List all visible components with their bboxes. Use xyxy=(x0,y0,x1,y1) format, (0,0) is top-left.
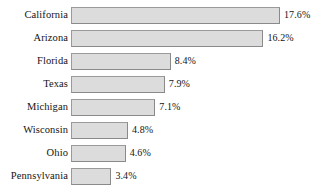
category-label: Wisconsin xyxy=(0,121,71,139)
value-label: 8.4% xyxy=(171,52,196,70)
value-label: 4.6% xyxy=(126,144,151,162)
chart-row: Texas 7.9% xyxy=(0,75,324,93)
value-label: 17.6% xyxy=(280,6,310,24)
chart-row: Wisconsin 4.8% xyxy=(0,121,324,139)
bar xyxy=(71,53,171,70)
bar-zone: 16.2% xyxy=(71,29,324,47)
category-label: Florida xyxy=(0,52,71,70)
category-label: Arizona xyxy=(0,29,71,47)
chart-row: Michigan 7.1% xyxy=(0,98,324,116)
bar xyxy=(71,7,280,24)
value-label: 3.4% xyxy=(111,167,136,185)
category-label: Ohio xyxy=(0,144,71,162)
value-label: 4.8% xyxy=(128,121,153,139)
chart-row: California 17.6% xyxy=(0,6,324,24)
bar-zone: 17.6% xyxy=(71,6,324,24)
bar-zone: 8.4% xyxy=(71,52,324,70)
bar-zone: 3.4% xyxy=(71,167,324,185)
chart-row: Arizona 16.2% xyxy=(0,29,324,47)
value-label: 16.2% xyxy=(263,29,293,47)
bar xyxy=(71,99,155,116)
chart-row: Ohio 4.6% xyxy=(0,144,324,162)
bar xyxy=(71,122,128,139)
category-label: Texas xyxy=(0,75,71,93)
value-label: 7.9% xyxy=(165,75,190,93)
bar xyxy=(71,145,126,162)
bar-zone: 4.8% xyxy=(71,121,324,139)
bar-zone: 7.9% xyxy=(71,75,324,93)
chart-row: Florida 8.4% xyxy=(0,52,324,70)
bar xyxy=(71,30,263,47)
bar xyxy=(71,76,165,93)
value-label: 7.1% xyxy=(155,98,180,116)
category-label: Michigan xyxy=(0,98,71,116)
bar xyxy=(71,168,111,185)
horizontal-bar-chart: California 17.6% Arizona 16.2% Florida 8… xyxy=(0,0,324,191)
category-label: California xyxy=(0,6,71,24)
bar-zone: 4.6% xyxy=(71,144,324,162)
category-label: Pennsylvania xyxy=(0,167,71,185)
chart-row: Pennsylvania 3.4% xyxy=(0,167,324,185)
bar-zone: 7.1% xyxy=(71,98,324,116)
